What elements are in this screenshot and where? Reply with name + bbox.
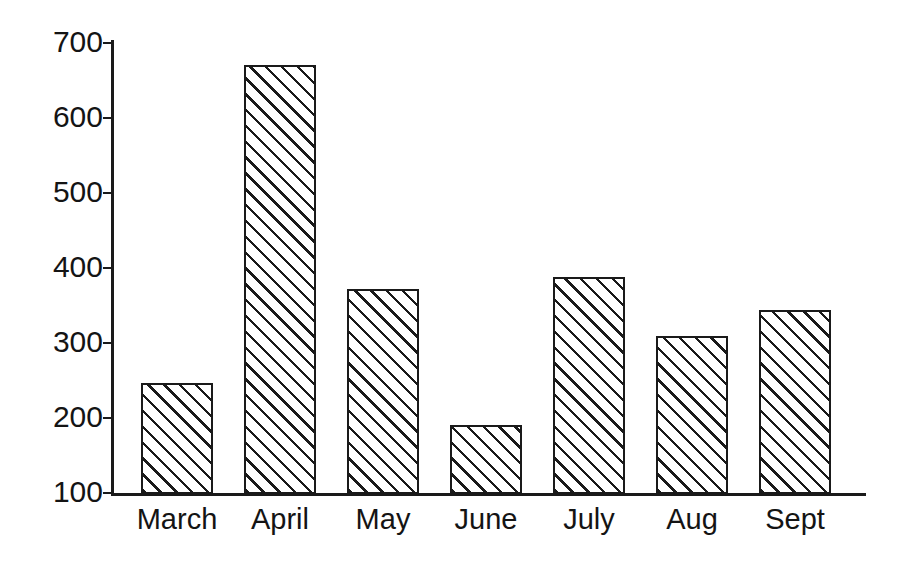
- bar-july: [553, 277, 625, 494]
- y-tick-mark-200: [103, 417, 113, 419]
- y-tick-mark-700: [103, 42, 113, 44]
- y-tick-label-700: 700: [35, 27, 103, 57]
- y-tick-mark-600: [103, 117, 113, 119]
- bar-aug: [656, 336, 728, 494]
- bar-april: [244, 65, 316, 494]
- y-tick-label-500: 500: [35, 177, 103, 207]
- bar-sept: [759, 310, 831, 494]
- bar-march: [141, 383, 213, 494]
- y-tick-mark-400: [103, 267, 113, 269]
- y-tick-label-400: 400: [35, 252, 103, 282]
- x-tick-label-sept: Sept: [725, 502, 865, 536]
- bar-june: [450, 425, 522, 494]
- y-tick-label-100: 100: [35, 477, 103, 507]
- y-tick-mark-300: [103, 342, 113, 344]
- y-tick-label-200: 200: [35, 402, 103, 432]
- bar-may: [347, 289, 419, 494]
- y-tick-label-300: 300: [35, 327, 103, 357]
- y-tick-label-600: 600: [35, 102, 103, 132]
- y-tick-mark-500: [103, 192, 113, 194]
- y-tick-mark-100: [103, 492, 113, 494]
- bar-chart: 700 600 500 400 300 200 100 March April …: [0, 0, 911, 562]
